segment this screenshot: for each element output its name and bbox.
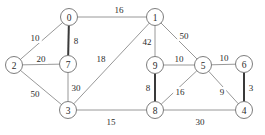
node-label-4: 4 [242, 106, 247, 116]
edge-weight-7-3: 30 [72, 83, 82, 93]
edge-weight-2-3: 50 [31, 89, 41, 99]
node-label-1: 1 [153, 13, 158, 23]
edge-weight-9-5: 10 [175, 54, 185, 64]
graph-node-7[interactable]: 7 [60, 56, 77, 73]
edge-weight-8-4: 30 [196, 117, 206, 127]
node-label-2: 2 [12, 61, 17, 71]
graph-node-8[interactable]: 8 [147, 102, 164, 119]
graph-node-9[interactable]: 9 [147, 57, 164, 74]
graph-node-0[interactable]: 0 [61, 9, 78, 26]
edge-weight-0-7: 8 [74, 36, 79, 46]
graph-diagram: 161082050301842501010816931530 012795638… [0, 0, 265, 135]
edge-weight-3-8: 15 [107, 117, 117, 127]
graph-node-6[interactable]: 6 [236, 56, 253, 73]
graph-node-2[interactable]: 2 [6, 57, 23, 74]
node-label-3: 3 [66, 106, 71, 116]
node-label-8: 8 [153, 106, 158, 116]
graph-node-4[interactable]: 4 [236, 102, 253, 119]
graph-canvas: 161082050301842501010816931530 012795638… [0, 0, 265, 135]
node-label-6: 6 [242, 60, 247, 70]
edge-weight-0-1: 16 [115, 5, 125, 15]
edge-weight-6-4: 3 [249, 83, 254, 93]
edge-weight-8-5: 16 [176, 87, 186, 97]
graph-node-3[interactable]: 3 [60, 102, 77, 119]
edge-weight-9-8: 8 [146, 83, 151, 93]
edge-weight-0-2: 10 [31, 33, 41, 43]
graph-edge-2-7 [23, 64, 60, 65]
node-label-5: 5 [201, 61, 206, 71]
graph-node-5[interactable]: 5 [195, 57, 212, 74]
node-label-9: 9 [153, 61, 158, 71]
graph-edge-3-1 [74, 23, 149, 104]
edge-weight-1-9: 42 [143, 37, 152, 47]
graph-edge-5-6 [212, 64, 236, 65]
graph-node-1[interactable]: 1 [147, 9, 164, 26]
node-label-7: 7 [66, 60, 71, 70]
edge-weight-5-4: 9 [220, 87, 225, 97]
graph-edge-2-3 [21, 70, 62, 104]
edge-weight-3-1: 18 [97, 54, 107, 64]
edge-weight-1-5: 50 [180, 31, 190, 41]
edge-weight-5-6: 10 [220, 53, 230, 63]
node-label-0: 0 [67, 13, 72, 23]
edge-weight-2-7: 20 [37, 54, 47, 64]
graph-edge-0-7 [68, 26, 69, 56]
